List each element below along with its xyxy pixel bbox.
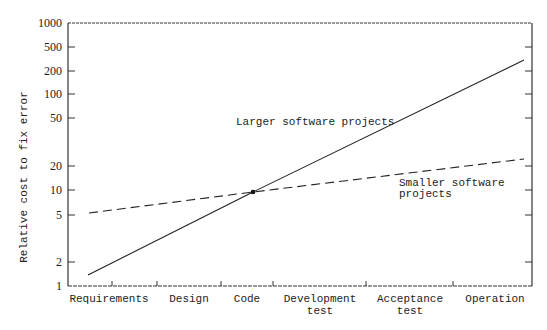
ytick-200: 200 <box>44 64 62 78</box>
y-axis-label: Relative cost to fix error <box>18 91 30 263</box>
ytick-100: 100 <box>44 87 62 101</box>
xcat-code: Code <box>234 293 260 305</box>
annotation-larger-projects: Larger software projects <box>236 116 394 128</box>
x-axis-ticks <box>112 281 453 286</box>
plot-frame <box>68 23 532 286</box>
y-axis-ticks-right <box>525 47 532 262</box>
xcat-operation: Operation <box>465 293 524 305</box>
y-tick-labels: 1000 500 200 100 50 20 10 5 2 1 <box>38 16 62 293</box>
ytick-50: 50 <box>50 111 62 125</box>
ytick-20: 20 <box>50 159 62 173</box>
x-category-labels: Requirements Design Code Development tes… <box>69 293 524 317</box>
xcat-development-test: test <box>307 305 333 317</box>
xcat-requirements: Requirements <box>69 293 148 305</box>
ytick-10: 10 <box>50 183 62 197</box>
ytick-1: 1 <box>56 279 62 293</box>
ytick-1000: 1000 <box>38 16 62 30</box>
xcat-development: Development <box>284 293 357 305</box>
xcat-acceptance: Acceptance <box>377 293 443 305</box>
ytick-2: 2 <box>56 255 62 269</box>
intersection-point <box>251 190 256 195</box>
ytick-5: 5 <box>56 208 62 222</box>
ytick-500: 500 <box>44 40 62 54</box>
xcat-design: Design <box>169 293 209 305</box>
xcat-acceptance-test: test <box>397 305 423 317</box>
y-axis-ticks-left <box>68 47 75 262</box>
cost-to-fix-chart: 1000 500 200 100 50 20 10 5 2 1 Relative… <box>0 0 547 330</box>
annotation-smaller-projects-line2: projects <box>399 188 452 200</box>
